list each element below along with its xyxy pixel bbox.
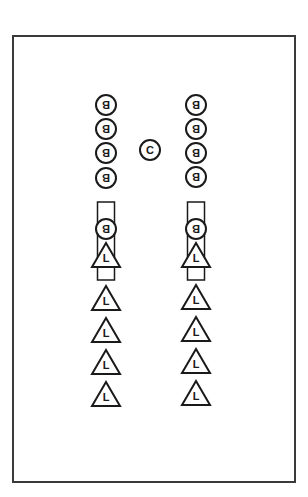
stem-assembly: BL — [182, 202, 210, 280]
marker-label: L — [103, 391, 110, 403]
marker-label: B — [192, 171, 200, 183]
marker-label: L — [193, 390, 200, 402]
marker-label: B — [192, 99, 200, 111]
marker-label: C — [146, 144, 154, 156]
b-circle: B — [186, 167, 206, 187]
marker-label: L — [193, 294, 200, 306]
l-triangle: L — [92, 382, 120, 406]
stem-rect — [188, 202, 205, 280]
stem-l-triangle: L — [92, 243, 120, 267]
l-triangle: L — [92, 350, 120, 374]
stem-b-circle: B — [186, 219, 206, 239]
c-marker: C — [140, 140, 160, 160]
marker-label: L — [103, 359, 110, 371]
marker-label: L — [103, 252, 110, 264]
b-circle: B — [186, 119, 206, 139]
l-triangle: L — [182, 381, 210, 405]
marker-label: L — [103, 327, 110, 339]
l-triangle: L — [92, 286, 120, 310]
column-left: BBBBBLLLLL — [92, 95, 120, 406]
b-circle: B — [96, 168, 116, 188]
marker-label: B — [102, 123, 110, 135]
diagram-canvas: BBBBBLLLLLBBBBBLLLLLC — [0, 0, 308, 497]
l-triangle: L — [182, 349, 210, 373]
l-triangle: L — [92, 318, 120, 342]
b-circle: B — [96, 119, 116, 139]
stem-assembly: BL — [92, 202, 120, 280]
marker-label: B — [192, 123, 200, 135]
b-circle: B — [96, 95, 116, 115]
marker-label: B — [102, 99, 110, 111]
stem-b-circle: B — [96, 219, 116, 239]
marker-label: L — [103, 295, 110, 307]
marker-label: B — [192, 223, 200, 235]
b-circle: B — [186, 95, 206, 115]
marker-label: B — [102, 172, 110, 184]
stem-l-triangle: L — [182, 243, 210, 267]
b-circle: B — [96, 143, 116, 163]
marker-label: L — [193, 252, 200, 264]
l-triangle: L — [182, 317, 210, 341]
marker-label: L — [193, 326, 200, 338]
marker-label: L — [193, 358, 200, 370]
column-right: BBBBBLLLLL — [182, 95, 210, 405]
marker-label: B — [102, 147, 110, 159]
stem-rect — [98, 202, 115, 280]
marker-label: B — [102, 223, 110, 235]
l-triangle: L — [182, 285, 210, 309]
marker-label: B — [192, 147, 200, 159]
b-circle: B — [186, 143, 206, 163]
